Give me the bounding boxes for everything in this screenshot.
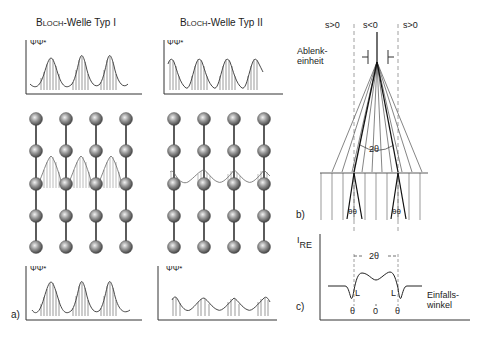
y-axis-label: IRE bbox=[297, 235, 312, 250]
type-2-top-plot: ΨΨ* bbox=[164, 38, 283, 94]
s-right-label: s>0 bbox=[403, 20, 418, 30]
tick-zero: 0 bbox=[373, 306, 378, 316]
deflector-label-1: Ablenk- bbox=[297, 46, 328, 56]
width-2theta-label: 2θ bbox=[369, 251, 379, 261]
tick-theta-left: θ bbox=[350, 306, 355, 316]
bloch-wave-type-2: BLOCH-Welle Typ II ΨΨ* bbox=[158, 17, 283, 320]
type-1-top-axis-label: ΨΨ* bbox=[30, 38, 46, 47]
x-axis-label-2: winkel bbox=[426, 300, 452, 310]
type-1-atom-lattice bbox=[30, 113, 133, 254]
L-right-label: L bbox=[391, 288, 396, 298]
panel-c-label: c) bbox=[296, 301, 304, 312]
bloch-wave-type-1: BLOCH-Welle Typ I ΨΨ* bbox=[11, 17, 142, 320]
type-1-bottom-axis-label: ΨΨ* bbox=[30, 264, 46, 273]
type-1-bottom-plot: ΨΨ* bbox=[26, 264, 142, 320]
type-2-atom-lattice bbox=[168, 113, 271, 254]
type-1-title: BLOCH-Welle Typ I bbox=[36, 17, 116, 28]
deflector-plates bbox=[362, 50, 394, 64]
bloch-wave-diagram: BLOCH-Welle Typ I ΨΨ* bbox=[0, 0, 483, 337]
angle-theta-left-label: θθ bbox=[348, 207, 357, 216]
panel-b-label: b) bbox=[296, 209, 305, 220]
type-2-bottom-axis-label: ΨΨ* bbox=[166, 264, 182, 273]
type-2-top-axis-label: ΨΨ* bbox=[167, 38, 183, 47]
panel-b-beam-rocking: s>0 s<0 s>0 Ablenk- einheit bbox=[296, 20, 428, 232]
s-left-label: s>0 bbox=[325, 20, 340, 30]
panel-a-label: a) bbox=[11, 309, 20, 320]
tick-theta-right: θ bbox=[395, 306, 400, 316]
type-2-bottom-plot: ΨΨ* bbox=[158, 264, 277, 320]
deflector-label-2: einheit bbox=[297, 56, 324, 66]
panel-c-rocking-curve: IRE 2θ L L θ 0 θ Einfalls- winkel c) bbox=[296, 234, 470, 320]
type-2-title: BLOCH-Welle Typ II bbox=[180, 17, 263, 28]
angle-theta-right-label: θθ bbox=[392, 207, 401, 216]
s-center-label: s<0 bbox=[363, 20, 378, 30]
x-axis-label-1: Einfalls- bbox=[427, 290, 459, 300]
angle-2theta-label: 2θ bbox=[369, 144, 379, 154]
L-left-label: L bbox=[355, 288, 360, 298]
type-1-top-plot: ΨΨ* bbox=[26, 38, 142, 94]
